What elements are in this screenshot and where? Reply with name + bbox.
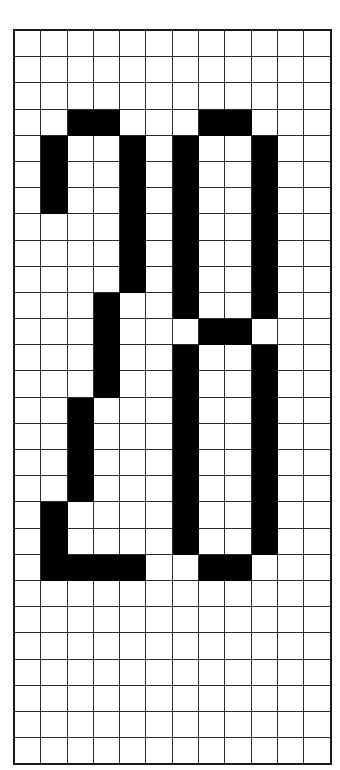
pixel-cell-empty[interactable]: [199, 738, 225, 765]
pixel-cell-empty[interactable]: [146, 319, 172, 345]
pixel-cell-filled[interactable]: [199, 109, 225, 135]
pixel-cell-empty[interactable]: [304, 371, 331, 397]
pixel-cell-empty[interactable]: [277, 580, 303, 606]
pixel-cell-empty[interactable]: [304, 607, 331, 633]
pixel-cell-empty[interactable]: [172, 685, 198, 711]
pixel-cell-filled[interactable]: [172, 502, 198, 528]
pixel-cell-empty[interactable]: [199, 580, 225, 606]
pixel-cell-empty[interactable]: [304, 214, 331, 240]
pixel-cell-empty[interactable]: [67, 659, 93, 685]
pixel-cell-empty[interactable]: [93, 580, 119, 606]
pixel-cell-empty[interactable]: [67, 319, 93, 345]
pixel-cell-empty[interactable]: [277, 659, 303, 685]
pixel-cell-empty[interactable]: [199, 528, 225, 554]
pixel-cell-empty[interactable]: [172, 109, 198, 135]
pixel-cell-empty[interactable]: [304, 738, 331, 765]
pixel-cell-empty[interactable]: [93, 685, 119, 711]
pixel-cell-empty[interactable]: [93, 607, 119, 633]
pixel-cell-empty[interactable]: [41, 580, 67, 606]
pixel-cell-empty[interactable]: [93, 659, 119, 685]
pixel-cell-empty[interactable]: [93, 711, 119, 737]
pixel-cell-empty[interactable]: [67, 240, 93, 266]
pixel-cell-empty[interactable]: [146, 738, 172, 765]
pixel-cell-empty[interactable]: [146, 685, 172, 711]
pixel-cell-empty[interactable]: [277, 109, 303, 135]
pixel-cell-empty[interactable]: [67, 83, 93, 109]
pixel-cell-empty[interactable]: [199, 397, 225, 423]
pixel-cell-empty[interactable]: [41, 214, 67, 240]
pixel-cell-empty[interactable]: [146, 371, 172, 397]
pixel-cell-empty[interactable]: [67, 607, 93, 633]
pixel-cell-empty[interactable]: [67, 30, 93, 57]
pixel-cell-empty[interactable]: [277, 161, 303, 187]
pixel-cell-empty[interactable]: [14, 633, 41, 659]
pixel-cell-empty[interactable]: [67, 266, 93, 292]
pixel-cell-filled[interactable]: [93, 319, 119, 345]
pixel-cell-empty[interactable]: [225, 738, 251, 765]
pixel-cell-empty[interactable]: [304, 109, 331, 135]
pixel-cell-empty[interactable]: [120, 528, 146, 554]
pixel-cell-empty[interactable]: [41, 345, 67, 371]
pixel-cell-empty[interactable]: [41, 240, 67, 266]
pixel-cell-filled[interactable]: [199, 319, 225, 345]
pixel-cell-empty[interactable]: [225, 711, 251, 737]
pixel-cell-filled[interactable]: [251, 528, 277, 554]
pixel-cell-empty[interactable]: [251, 109, 277, 135]
pixel-cell-filled[interactable]: [172, 135, 198, 161]
pixel-cell-empty[interactable]: [41, 423, 67, 449]
pixel-cell-empty[interactable]: [225, 57, 251, 83]
pixel-cell-filled[interactable]: [67, 450, 93, 476]
pixel-cell-empty[interactable]: [120, 738, 146, 765]
pixel-cell-empty[interactable]: [93, 502, 119, 528]
pixel-cell-empty[interactable]: [146, 240, 172, 266]
pixel-cell-empty[interactable]: [146, 30, 172, 57]
pixel-cell-empty[interactable]: [41, 607, 67, 633]
pixel-cell-filled[interactable]: [67, 554, 93, 580]
pixel-cell-empty[interactable]: [14, 214, 41, 240]
pixel-cell-filled[interactable]: [225, 554, 251, 580]
pixel-cell-empty[interactable]: [199, 423, 225, 449]
pixel-cell-empty[interactable]: [93, 450, 119, 476]
pixel-cell-empty[interactable]: [67, 345, 93, 371]
pixel-cell-empty[interactable]: [146, 292, 172, 318]
pixel-cell-filled[interactable]: [41, 135, 67, 161]
pixel-cell-empty[interactable]: [41, 685, 67, 711]
pixel-cell-empty[interactable]: [199, 57, 225, 83]
pixel-cell-filled[interactable]: [41, 502, 67, 528]
pixel-cell-empty[interactable]: [120, 397, 146, 423]
pixel-cell-empty[interactable]: [172, 83, 198, 109]
pixel-cell-empty[interactable]: [146, 633, 172, 659]
pixel-cell-empty[interactable]: [14, 580, 41, 606]
pixel-cell-empty[interactable]: [251, 711, 277, 737]
pixel-cell-empty[interactable]: [67, 371, 93, 397]
pixel-cell-filled[interactable]: [41, 188, 67, 214]
pixel-cell-empty[interactable]: [304, 450, 331, 476]
pixel-cell-empty[interactable]: [14, 57, 41, 83]
pixel-cell-filled[interactable]: [41, 528, 67, 554]
pixel-cell-empty[interactable]: [67, 738, 93, 765]
pixel-cell-empty[interactable]: [225, 161, 251, 187]
pixel-cell-empty[interactable]: [225, 83, 251, 109]
pixel-cell-empty[interactable]: [225, 528, 251, 554]
pixel-cell-empty[interactable]: [277, 528, 303, 554]
pixel-cell-empty[interactable]: [199, 135, 225, 161]
pixel-cell-empty[interactable]: [172, 554, 198, 580]
pixel-cell-empty[interactable]: [93, 476, 119, 502]
pixel-cell-filled[interactable]: [172, 397, 198, 423]
pixel-cell-empty[interactable]: [41, 83, 67, 109]
pixel-cell-filled[interactable]: [172, 240, 198, 266]
pixel-cell-empty[interactable]: [93, 57, 119, 83]
pixel-cell-empty[interactable]: [277, 83, 303, 109]
pixel-cell-empty[interactable]: [199, 345, 225, 371]
pixel-cell-empty[interactable]: [67, 161, 93, 187]
pixel-cell-empty[interactable]: [41, 711, 67, 737]
pixel-cell-empty[interactable]: [93, 214, 119, 240]
pixel-cell-empty[interactable]: [225, 135, 251, 161]
pixel-cell-empty[interactable]: [120, 30, 146, 57]
pixel-cell-filled[interactable]: [120, 188, 146, 214]
pixel-cell-empty[interactable]: [93, 738, 119, 765]
pixel-cell-empty[interactable]: [120, 502, 146, 528]
pixel-cell-empty[interactable]: [277, 685, 303, 711]
pixel-cell-empty[interactable]: [14, 659, 41, 685]
pixel-cell-empty[interactable]: [199, 83, 225, 109]
